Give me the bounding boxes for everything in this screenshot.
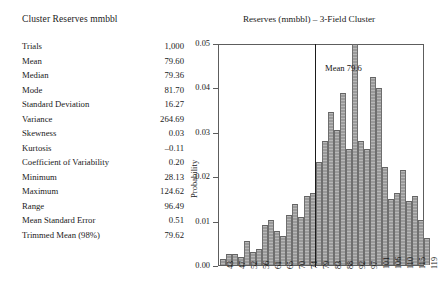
stats-row-label: Trials xyxy=(22,41,143,56)
mean-line xyxy=(315,44,316,267)
stats-row-value: 16.27 xyxy=(143,99,184,114)
x-tick-label: 56 xyxy=(262,261,271,269)
y-tick-label: 0.02 xyxy=(186,172,210,181)
x-tick-label: 47 xyxy=(238,261,247,269)
stats-row-label: Mode xyxy=(22,85,143,100)
stats-row-value: 124.62 xyxy=(143,186,184,201)
y-tick-label: 0.01 xyxy=(186,217,210,226)
x-tick-label: 110 xyxy=(406,257,415,269)
histogram-bars xyxy=(219,45,423,265)
stats-row-value: 264.69 xyxy=(143,114,184,129)
stats-row-value: 96.49 xyxy=(143,201,184,216)
stats-row: Standard Deviation16.27 xyxy=(22,99,184,114)
stats-row-value: 79.62 xyxy=(143,230,184,245)
stats-row-value: 28.13 xyxy=(143,172,184,187)
histogram-chart: Reserves (mmbbl) – 3-Field Cluster Proba… xyxy=(186,6,438,298)
stats-row: Coefficient of Variability0.20 xyxy=(22,157,184,172)
x-tick-label: 52 xyxy=(250,261,259,269)
mean-annotation-label: Mean 79.6 xyxy=(325,63,362,73)
stats-row-label: Median xyxy=(22,70,143,85)
statistics-table-body: Trials1,000Mean79.60Median79.36Mode81.70… xyxy=(22,41,184,244)
stats-row: Minimum28.13 xyxy=(22,172,184,187)
y-tick-label: 0.03 xyxy=(186,128,210,137)
x-tick-label: 106 xyxy=(394,257,403,269)
plot-area: Mean 79.6 xyxy=(218,44,424,266)
x-tick-label: 65 xyxy=(286,261,295,269)
stats-row-label: Range xyxy=(22,201,143,216)
x-tick-label: 92 xyxy=(358,261,367,269)
stats-row-label: Variance xyxy=(22,114,143,129)
x-tick-label: 43 xyxy=(226,261,235,269)
statistics-title: Cluster Reserves mmbbl xyxy=(22,14,184,24)
stats-row: Maximum124.62 xyxy=(22,186,184,201)
stats-row: Median79.36 xyxy=(22,70,184,85)
x-tick-label: 74 xyxy=(310,261,319,269)
y-tick-mark xyxy=(213,266,218,267)
x-tick-label: 115 xyxy=(418,257,427,269)
x-tick-label: 83 xyxy=(334,261,343,269)
stats-row: Skewness0.03 xyxy=(22,128,184,143)
statistics-panel: Cluster Reserves mmbbl Trials1,000Mean79… xyxy=(22,14,184,244)
x-tick-label: 88 xyxy=(346,261,355,269)
stats-row: Trials1,000 xyxy=(22,41,184,56)
stats-row-label: Maximum xyxy=(22,186,143,201)
stats-row: Mean Standard Error0.51 xyxy=(22,215,184,230)
stats-row: Mean79.60 xyxy=(22,56,184,71)
stats-row-label: Skewness xyxy=(22,128,143,143)
stats-row-value: 0.03 xyxy=(143,128,184,143)
x-tick-label: 119 xyxy=(430,257,439,269)
stats-row-value: 0.51 xyxy=(143,215,184,230)
stats-row-label: Standard Deviation xyxy=(22,99,143,114)
y-tick-label: 0.00 xyxy=(186,261,210,270)
stats-row-label: Trimmed Mean (98%) xyxy=(22,230,143,245)
stats-row-value: 79.60 xyxy=(143,56,184,71)
figure-root: Cluster Reserves mmbbl Trials1,000Mean79… xyxy=(0,0,443,304)
stats-row-label: Minimum xyxy=(22,172,143,187)
statistics-table: Trials1,000Mean79.60Median79.36Mode81.70… xyxy=(22,41,184,244)
stats-row-label: Mean xyxy=(22,56,143,71)
chart-title: Reserves (mmbbl) – 3-Field Cluster xyxy=(186,14,432,24)
stats-row-value: 79.36 xyxy=(143,70,184,85)
stats-row-label: Kurtosis xyxy=(22,143,143,158)
stats-row-label: Mean Standard Error xyxy=(22,215,143,230)
stats-row-value: –0.11 xyxy=(143,143,184,158)
y-tick-label: 0.05 xyxy=(186,39,210,48)
stats-row: Trimmed Mean (98%)79.62 xyxy=(22,230,184,245)
stats-row: Kurtosis–0.11 xyxy=(22,143,184,158)
x-tick-label: 79 xyxy=(322,261,331,269)
x-tick-label: 61 xyxy=(274,261,283,269)
stats-row-value: 1,000 xyxy=(143,41,184,56)
stats-row-value: 0.20 xyxy=(143,157,184,172)
stats-row: Mode81.70 xyxy=(22,85,184,100)
y-tick-label: 0.04 xyxy=(186,83,210,92)
stats-row: Range96.49 xyxy=(22,201,184,216)
stats-row: Variance264.69 xyxy=(22,114,184,129)
x-tick-label: 101 xyxy=(382,257,391,269)
stats-row-label: Coefficient of Variability xyxy=(22,157,143,172)
stats-row-value: 81.70 xyxy=(143,85,184,100)
x-tick-label: 97 xyxy=(370,261,379,269)
x-tick-label: 70 xyxy=(298,261,307,269)
